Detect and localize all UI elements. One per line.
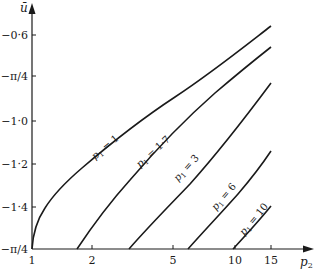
y-tick-label: −1·0 [1,115,28,128]
y-ticks: −0·6 −π/4 −1·0 −1·2 −1·4 −π/4 [1,29,36,256]
x-axis-arrow-icon [303,246,314,253]
y-axis-arrow-icon [29,3,36,14]
x-tick-label: 1 [29,254,36,267]
curve-p1-6 [188,151,271,249]
y-tick-label: −0·6 [1,29,28,42]
curves [32,26,271,249]
curve-label-p1-10: p1 = 10 [237,201,272,239]
x-ticks: 1 2 5 10 15 [29,245,279,267]
x-tick-label: 15 [264,254,278,267]
x-tick-label: 5 [170,254,177,267]
curve-label-p1-1-7: p1 = 1·7 [134,134,174,171]
y-tick-label: −π/4 [1,243,28,256]
x-axis-title: p2 [300,255,313,270]
y-tick-label: −1·2 [1,158,28,171]
y-axis-title: ū [20,1,28,15]
curve-label-p1-3: p1 = 3 [171,152,202,184]
x-tick-label: 2 [89,254,96,267]
y-tick-label: −1·4 [1,201,28,214]
curve-label-p1-1: p1 = 1 [89,133,122,164]
curve-p1-1 [32,26,271,249]
x-tick-label: 10 [228,254,242,267]
chart-canvas: ū p2 −0·6 −π/4 −1·0 −1·2 −1·4 −π/4 1 2 5… [0,0,318,272]
y-tick-label: −π/4 [1,70,28,83]
